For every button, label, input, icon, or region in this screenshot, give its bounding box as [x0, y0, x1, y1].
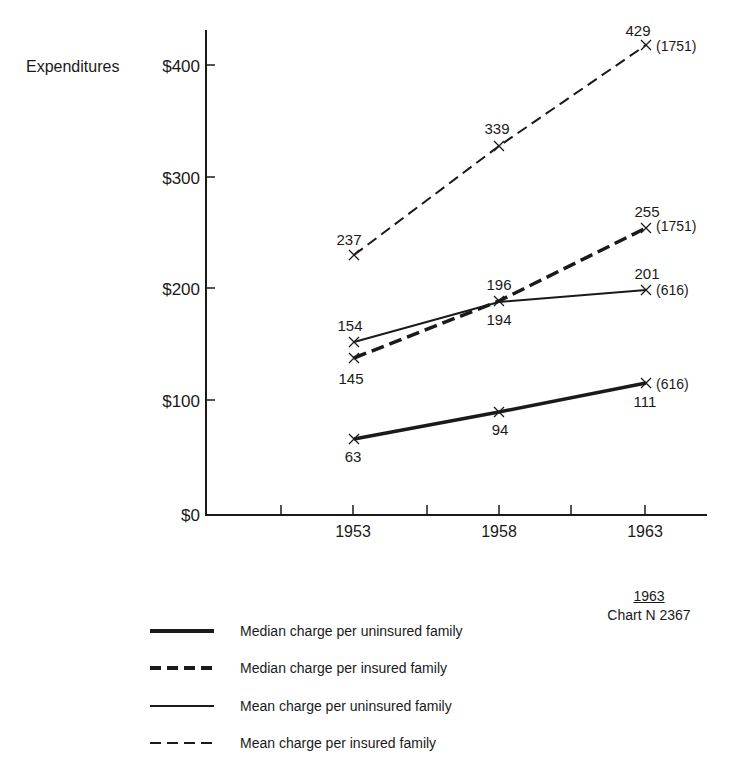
x-tick-label-1958: 1958 [481, 523, 517, 540]
point-label: 63 [345, 448, 362, 465]
legend-item-median-insured: Median charge per insured family [150, 650, 463, 688]
y-tick-label-300: $300 [162, 169, 200, 188]
marker-x-icon [349, 250, 359, 260]
legend-label: Median charge per insured family [240, 660, 447, 676]
x-tick-label-1963: 1963 [627, 523, 663, 540]
y-tick-label-400: $400 [162, 57, 200, 76]
marker-x-icon [641, 40, 651, 50]
y-tick-label-0: $0 [181, 506, 200, 525]
legend: Median charge per uninsured family Media… [150, 612, 463, 762]
chart-ref-year: 1963 [588, 587, 710, 606]
point-label: 339 [484, 120, 509, 137]
point-label: 154 [337, 317, 362, 334]
thick-solid-line-icon [150, 625, 214, 637]
point-label: 201 [634, 265, 659, 282]
point-label: 196 [486, 276, 511, 293]
legend-label: Mean charge per insured family [240, 735, 436, 751]
point-label: 194 [486, 311, 511, 328]
y-tick-label-200: $200 [162, 280, 200, 299]
thin-dashed-line-icon [150, 737, 214, 749]
chart-ref-id: Chart N 2367 [588, 606, 710, 625]
legend-item-median-uninsured: Median charge per uninsured family [150, 612, 463, 650]
series-mean-insured [354, 45, 646, 255]
marker-x-icon [494, 141, 504, 151]
thick-dashed-line-icon [150, 662, 214, 674]
y-tick-label-100: $100 [162, 392, 200, 411]
end-annotation: (616) [656, 376, 689, 392]
x-tick-label-1953: 1953 [335, 523, 371, 540]
legend-item-mean-uninsured: Mean charge per uninsured family [150, 687, 463, 725]
point-label: 94 [492, 421, 509, 438]
legend-label: Median charge per uninsured family [240, 623, 463, 639]
legend-label: Mean charge per uninsured family [240, 698, 452, 714]
point-label: 429 [625, 22, 650, 39]
chart-reference: 1963 Chart N 2367 [588, 587, 710, 625]
end-annotation: (616) [656, 282, 689, 298]
point-label: 237 [336, 231, 361, 248]
legend-item-mean-insured: Mean charge per insured family [150, 725, 463, 763]
point-markers [349, 40, 651, 444]
end-annotation: (1751) [656, 218, 696, 234]
point-label: 145 [338, 370, 363, 387]
thin-solid-line-icon [150, 700, 214, 712]
end-annotation: (1751) [656, 38, 696, 54]
point-label: 111 [634, 393, 657, 410]
y-axis-title: Expenditures [26, 58, 119, 75]
